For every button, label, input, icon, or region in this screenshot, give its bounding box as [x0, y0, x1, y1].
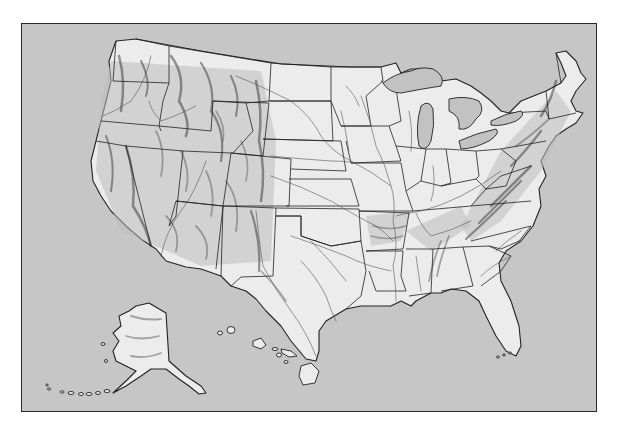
florida-keys [497, 352, 512, 358]
map-frame [21, 23, 597, 412]
alaska-landmass [113, 303, 206, 394]
us-physical-map [22, 24, 597, 412]
aleutian-islands [46, 343, 110, 396]
